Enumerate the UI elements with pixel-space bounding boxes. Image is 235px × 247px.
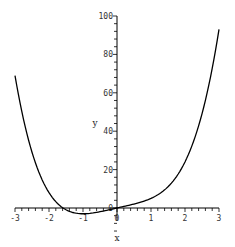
x-axis-label: x [114,233,119,243]
y-tick-label: 20 [103,166,113,175]
y-tick-label: 60 [103,89,113,98]
y-axis-label: y [91,118,98,128]
x-tick-label: 3 [217,214,222,223]
x-tick-label: -1 [78,214,88,223]
function-plot: -3-2-10123020406080100 x y [0,0,235,247]
x-tick-label: 0 [115,214,120,223]
y-tick-label: 40 [103,127,113,136]
x-tick-label: 1 [149,214,154,223]
y-tick-label: 100 [99,12,114,21]
axes: -3-2-10123020406080100 [10,12,221,231]
x-tick-label: 2 [183,214,188,223]
y-tick-label: 80 [103,50,113,59]
x-tick-label: -3 [10,214,20,223]
x-tick-label: -2 [44,214,54,223]
